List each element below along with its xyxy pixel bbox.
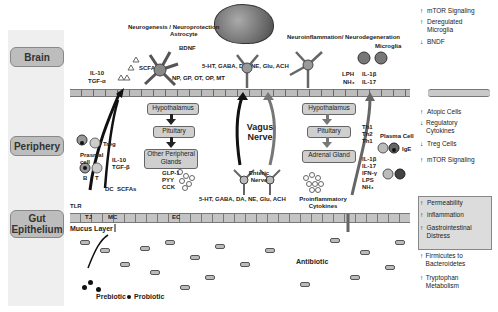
bacterium-icon — [240, 262, 250, 267]
effect-periphery-mtor: ↑mTOR Signaling — [420, 156, 475, 164]
cck-label: CCK — [162, 184, 175, 191]
periphery-tgfb-label: TGF-β — [112, 164, 130, 171]
other-peripheral-glands-box: Other Peripheral Glands — [144, 149, 198, 169]
bacterium-icon — [300, 282, 310, 287]
bacterium-icon — [330, 238, 340, 243]
th1b-label: Th1 — [362, 138, 373, 145]
hypothalamus-box-right: Hypothalamus — [302, 103, 356, 115]
bacterium-icon — [80, 240, 90, 245]
ec-label: EC — [172, 214, 180, 221]
effect-permeability: ↑Permeability — [420, 199, 463, 207]
effect-brain-mtor: ↑mTOR Signaling — [420, 7, 475, 15]
bacterium-icon — [385, 265, 395, 270]
th1-label: Th1 — [362, 124, 373, 131]
tlr-label: TLR — [70, 203, 82, 210]
bacterium-icon — [100, 248, 110, 253]
right-il17-label: IL-17 — [362, 163, 376, 170]
effect-firmicutes: ↑Firmicutes to Bacteroidetes — [420, 252, 482, 267]
effect-regulatory-cytokines: ↓Regulatory Cytokines — [420, 119, 476, 134]
bacterium-icon — [180, 285, 190, 290]
effect-deregulated-microglia: ↑Deregulated Microglia — [420, 18, 490, 33]
effect-inflammation: ↑inflammation — [420, 211, 464, 219]
mc-label: MC — [108, 214, 117, 221]
lps-label: LPS — [362, 177, 374, 184]
right-nh3-label: NH₃ — [362, 184, 373, 191]
bacterium-icon — [265, 248, 275, 253]
prebiotic-dot-icon — [88, 280, 93, 285]
pituitary-box-right: Pituitary — [307, 126, 351, 138]
probiotic-label: Probiotic — [134, 293, 164, 300]
effect-treg-cells: ↓Treg Cells — [420, 140, 456, 148]
down-arrow-icon — [166, 119, 176, 125]
probiotic-dot-icon — [127, 295, 131, 299]
periphery-il10-label: IL-10 — [112, 157, 126, 164]
prebiotic-dot-icon — [96, 287, 101, 292]
pyy-label: PYY — [162, 177, 174, 184]
bacterium-icon — [350, 275, 360, 280]
pituitary-box-left: Pituitary — [153, 126, 195, 138]
treg-label: Treg — [103, 141, 116, 148]
prebiotic-dot-icon — [82, 285, 87, 290]
plasma-cell-right-label: Plasma Cell — [380, 133, 414, 140]
down-arrow-icon — [322, 119, 332, 125]
down-arrow-icon — [166, 142, 176, 148]
mucus-layer-label: Mucus Layer — [70, 225, 113, 232]
bacterium-icon — [165, 240, 175, 245]
bacterium-icon — [120, 262, 130, 267]
microglia-icon — [358, 52, 387, 64]
scfa-particles — [118, 57, 139, 80]
glp1-label: GLP-1 — [162, 170, 180, 177]
vagus-nerve-label: Vagus Nerve — [245, 122, 275, 142]
bacterium-icon — [395, 240, 405, 245]
bacterium-icon — [205, 275, 215, 280]
dc-label: DC — [105, 186, 114, 193]
proinflammatory-cytokines-label: Proinflammatory Cytokines — [297, 196, 349, 210]
b-cell-label: B — [83, 175, 87, 182]
enteric-nerve-label: Enteric Nerve — [247, 170, 271, 184]
bacterium-icon — [190, 255, 200, 260]
prebiotic-label: Prebiotic — [96, 293, 126, 300]
effect-tryptophan: ↑Tryptophan Metabolism — [420, 274, 476, 289]
tj-label: TJ — [85, 214, 92, 221]
hypothalamus-box-left: Hypothalamus — [147, 103, 199, 115]
adrenal-gland-box: Adrenal Gland — [302, 150, 356, 163]
ifn-label: IFN-γ — [362, 170, 377, 177]
th2-label: Th2 — [362, 131, 373, 138]
ige-label: IgE — [402, 146, 411, 153]
effect-atopic-cells: ↑Atopic Cells — [420, 108, 461, 116]
bacterium-icon — [140, 246, 150, 251]
bacterium-icon — [215, 244, 225, 249]
bacterium-icon — [360, 250, 370, 255]
t-cell-label: T — [95, 175, 99, 182]
effect-bndf: ↓BNDF — [420, 38, 445, 46]
down-arrow-icon — [322, 142, 332, 148]
periphery-scfas-label: SCFAs — [117, 186, 136, 193]
gut-neurotransmitters-label: 5-HT, GABA, DA, NE, Glu, ACH — [199, 196, 286, 203]
antibiotic-label: Antibiotic — [296, 258, 328, 265]
bacterium-icon — [150, 270, 160, 275]
effect-gi-distress: ↑Gastrointestinal Distress — [420, 224, 490, 239]
right-il1b-label: IL-1β — [362, 156, 376, 163]
plasma-cell-left-label: Prasmal cell — [80, 152, 106, 166]
